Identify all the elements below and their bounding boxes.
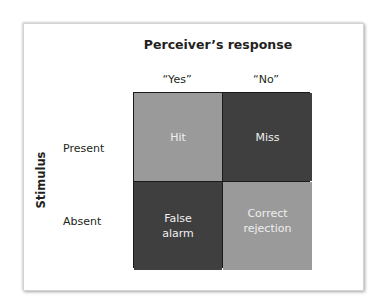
row-axis-title: Stimulus	[34, 152, 48, 209]
column-axis-title: Perceiver’s response	[0, 37, 380, 52]
cell-miss-label: Miss	[255, 130, 279, 145]
row-label-absent: Absent	[63, 215, 101, 228]
cell-hit-label: Hit	[170, 130, 186, 145]
row-label-present: Present	[63, 142, 104, 155]
cell-correct-rejection: Correct rejection	[223, 182, 312, 270]
column-label-yes: “Yes”	[133, 73, 221, 86]
signal-detection-matrix: Hit Miss False alarm Correct rejection	[133, 92, 310, 268]
cell-false-alarm-line1: False	[162, 211, 194, 226]
column-label-no: “No”	[222, 73, 310, 86]
cell-correct-rejection-line2: rejection	[244, 221, 292, 236]
cell-false-alarm: False alarm	[134, 182, 222, 270]
cell-miss: Miss	[223, 93, 312, 181]
cell-hit: Hit	[134, 93, 222, 181]
cell-correct-rejection-line1: Correct	[244, 206, 292, 221]
cell-false-alarm-line2: alarm	[162, 226, 194, 241]
